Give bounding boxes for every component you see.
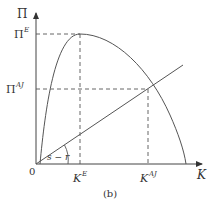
svg-text:E: E xyxy=(23,26,29,34)
k-aj-label: K AJ xyxy=(139,170,158,185)
svg-text:AJ: AJ xyxy=(148,170,158,178)
svg-text:Π: Π xyxy=(14,28,24,41)
pi-e-label: Π E xyxy=(14,26,29,41)
x-axis-label: K xyxy=(196,168,207,182)
angle-label: s − r xyxy=(47,152,70,162)
svg-text:K: K xyxy=(139,172,149,185)
pi-aj-label: Π AJ xyxy=(6,81,25,96)
svg-text:Π: Π xyxy=(6,83,16,96)
origin-label: 0 xyxy=(29,166,35,177)
return-line xyxy=(36,65,183,164)
svg-text:K: K xyxy=(72,172,82,185)
svg-text:E: E xyxy=(81,170,87,178)
profit-curve xyxy=(40,34,186,164)
profit-capital-diagram: Π K 0 Π E Π AJ K E K AJ s − r (b) xyxy=(0,0,217,208)
k-e-label: K E xyxy=(72,170,87,185)
caption: (b) xyxy=(103,188,117,199)
svg-text:AJ: AJ xyxy=(15,81,25,89)
y-axis-label: Π xyxy=(17,7,27,21)
